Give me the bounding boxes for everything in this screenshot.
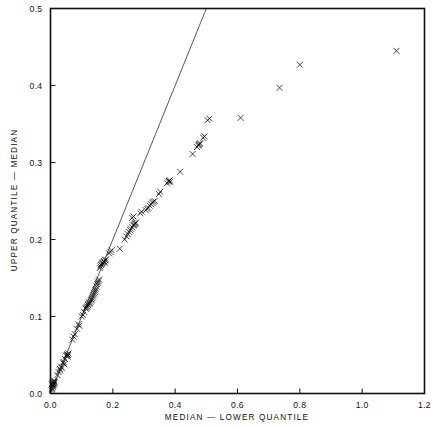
plot-canvas: 0.00.20.40.60.81.01.2 0.00.10.20.30.40.5…: [0, 0, 437, 429]
y-tick-label: 0.1: [30, 312, 43, 322]
x-tick-label: 1.2: [418, 400, 431, 410]
x-tick-label: 0.2: [106, 400, 119, 410]
x-tick-label: 0.6: [231, 400, 244, 410]
figure-background: [0, 0, 437, 429]
symmetry-plot-figure: 0.00.20.40.60.81.01.2 0.00.10.20.30.40.5…: [0, 0, 437, 429]
y-axis-title: UPPER QUANTILE — MEDIAN: [10, 129, 19, 271]
x-tick-label: 0.8: [293, 400, 306, 410]
y-tick-label: 0.5: [30, 4, 43, 14]
y-tick-label: 0.4: [30, 81, 43, 91]
x-tick-label: 0.0: [44, 400, 57, 410]
y-tick-label: 0.0: [30, 389, 43, 399]
x-tick-label: 1.0: [356, 400, 369, 410]
y-tick-label: 0.2: [30, 235, 43, 245]
x-axis-title: MEDIAN — LOWER QUANTILE: [165, 413, 309, 422]
y-tick-label: 0.3: [30, 158, 43, 168]
x-tick-label: 0.4: [169, 400, 182, 410]
